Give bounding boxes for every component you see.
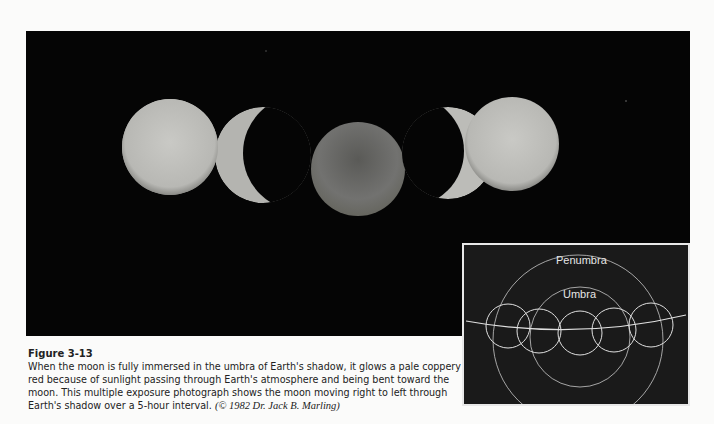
shadow-diagram-inset: Penumbra Umbra: [462, 243, 690, 406]
figure-title: Figure 3-13: [28, 347, 468, 360]
moon-eclipsed: [311, 122, 405, 216]
moon-path: [466, 315, 686, 330]
penumbra-label: Penumbra: [556, 254, 607, 266]
shadow-diagram: [464, 245, 688, 404]
umbra-label: Umbra: [563, 288, 596, 300]
figure-caption: Figure 3-13 When the moon is fully immer…: [28, 347, 468, 412]
umbra-circle: [530, 287, 630, 387]
photo-credit: (© 1982 Dr. Jack B. Marling): [215, 400, 340, 411]
moon-right: [465, 97, 559, 191]
